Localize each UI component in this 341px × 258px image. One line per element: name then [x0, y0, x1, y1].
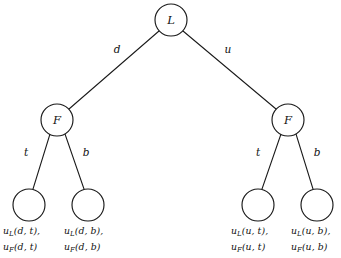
payoff-arguments: (u, t),: [242, 225, 269, 236]
payoff-subscript: F: [9, 246, 14, 254]
edge-left-f-to-leaf-2: [65, 134, 84, 189]
payoff-arguments: (d, b),: [75, 225, 104, 236]
payoff-line-1: uL(u, b),: [291, 224, 330, 240]
edge-label-root-right: u: [225, 43, 232, 55]
payoff-label: uL(u, b), uF(u, b): [291, 224, 330, 255]
node-leaf-3[interactable]: [242, 189, 274, 221]
payoff-arguments: (u, t): [242, 241, 266, 252]
node-leaf-1[interactable]: [13, 189, 45, 221]
edge-label-right-b: b: [314, 146, 321, 158]
payoff-subscript: F: [237, 246, 242, 254]
edge-right-f-to-leaf-3: [262, 134, 281, 189]
payoff-subscript: F: [297, 246, 302, 254]
payoff-line-2: uF(u, t): [231, 240, 268, 256]
payoff-line-2: uF(d, t): [3, 240, 40, 256]
node-root-leader-label: L: [166, 13, 175, 27]
payoff-subscript: F: [70, 246, 75, 254]
edge-label-left-t: t: [24, 146, 29, 158]
payoff-arguments: (d, t): [14, 241, 37, 252]
payoff-arguments: (d, t),: [14, 225, 41, 236]
tree-graphics: L F F d u t b t b: [0, 0, 341, 258]
payoff-arguments: (d, b): [75, 241, 101, 252]
payoff-subscript: L: [9, 230, 14, 238]
edge-right-f-to-leaf-4: [296, 134, 313, 189]
payoff-arguments: (u, b),: [302, 225, 331, 236]
payoff-label: uL(d, t), uF(d, t): [3, 224, 40, 255]
payoff-label: uL(d, b), uF(d, b): [64, 224, 103, 255]
edge-label-right-t: t: [256, 146, 261, 158]
payoff-subscript: L: [70, 230, 75, 238]
payoff-line-2: uF(u, b): [291, 240, 330, 256]
payoff-subscript: L: [237, 230, 242, 238]
payoff-subscript: L: [297, 230, 302, 238]
edge-label-root-left: d: [114, 43, 121, 55]
payoff-line-1: uL(u, t),: [231, 224, 268, 240]
payoff-label: uL(u, t), uF(u, t): [231, 224, 268, 255]
payoff-line-2: uF(d, b): [64, 240, 103, 256]
payoff-arguments: (u, b): [302, 241, 328, 252]
payoff-line-1: uL(d, b),: [64, 224, 103, 240]
node-left-follower-label: F: [52, 113, 62, 127]
node-leaf-4[interactable]: [301, 189, 333, 221]
edge-left-f-to-leaf-1: [33, 134, 50, 189]
edge-label-left-b: b: [83, 146, 90, 158]
node-leaf-2[interactable]: [72, 189, 104, 221]
node-right-follower-label: F: [283, 113, 293, 127]
game-tree-figure: L F F d u t b t b uL(d, t), uF(d, t) uL(…: [0, 0, 341, 258]
payoff-line-1: uL(d, t),: [3, 224, 40, 240]
